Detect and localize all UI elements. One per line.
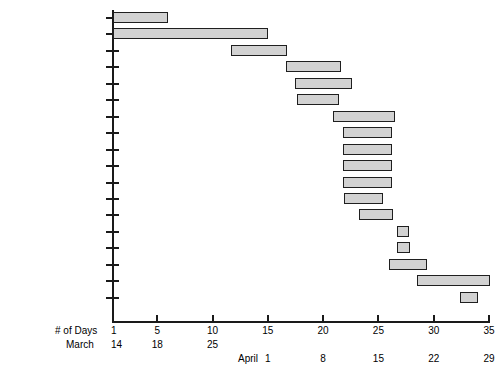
x-tick (156, 315, 158, 323)
task-bar[interactable] (389, 259, 427, 270)
x-tick (377, 315, 379, 323)
x-tick (267, 315, 269, 323)
x-tick (322, 315, 324, 323)
x-tick (212, 315, 214, 323)
y-tick (106, 50, 119, 52)
task-bar[interactable] (113, 12, 168, 23)
task-bar[interactable] (460, 292, 478, 303)
march-tick-label: 25 (193, 339, 233, 351)
day-tick-label: 15 (248, 325, 288, 337)
april-tick-label: 1 (248, 353, 288, 365)
task-bar[interactable] (397, 242, 410, 253)
x-tick (112, 315, 114, 323)
y-tick (106, 214, 119, 216)
y-tick (106, 247, 119, 249)
y-tick (106, 132, 119, 134)
task-bar[interactable] (343, 177, 392, 188)
april-tick-label: 22 (414, 353, 454, 365)
task-bar[interactable] (343, 160, 392, 171)
march-caption: March (66, 339, 94, 351)
day-tick-label: 25 (358, 325, 398, 337)
y-tick (106, 149, 119, 151)
day-tick-label: 20 (303, 325, 343, 337)
day-tick-label: 10 (193, 325, 233, 337)
y-tick (106, 99, 119, 101)
march-tick-label: 18 (137, 339, 177, 351)
task-bar[interactable] (397, 226, 409, 237)
chart-title-remnant: Production Schedule (155, 0, 355, 1)
april-tick-label: 8 (303, 353, 343, 365)
task-bar[interactable] (333, 111, 395, 122)
gantt-chart: Production Schedule Solicit Articles & T… (0, 0, 502, 373)
day-tick-label: 5 (137, 325, 177, 337)
task-bar[interactable] (343, 144, 392, 155)
task-bar[interactable] (286, 61, 341, 72)
x-tick (488, 315, 490, 323)
task-bar[interactable] (344, 193, 383, 204)
task-bar[interactable] (231, 45, 286, 56)
day-tick-label: 35 (469, 325, 502, 337)
y-tick (106, 165, 119, 167)
y-tick (106, 297, 119, 299)
day-tick-label: 30 (414, 325, 454, 337)
y-tick (106, 198, 119, 200)
y-tick (106, 116, 119, 118)
y-tick (106, 231, 119, 233)
y-tick (106, 280, 119, 282)
task-bar[interactable] (359, 209, 393, 220)
task-bar[interactable] (297, 94, 339, 105)
april-tick-label: 15 (358, 353, 398, 365)
days-caption: # of Days (55, 325, 97, 337)
y-tick (106, 66, 119, 68)
task-bar[interactable] (343, 127, 392, 138)
april-tick-label: 29 (469, 353, 502, 365)
y-tick (106, 264, 119, 266)
task-bar[interactable] (113, 28, 268, 39)
y-tick (106, 182, 119, 184)
y-tick (106, 83, 119, 85)
task-bar[interactable] (417, 275, 490, 286)
task-bar[interactable] (295, 78, 351, 89)
x-tick (433, 315, 435, 323)
